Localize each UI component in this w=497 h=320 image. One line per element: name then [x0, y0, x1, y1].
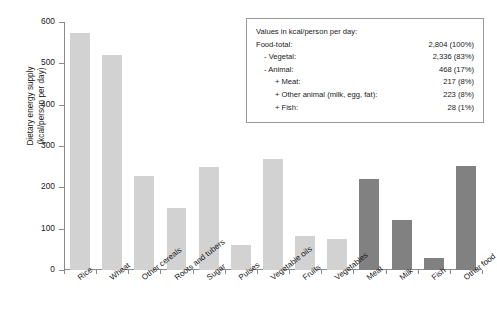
- info-row-label: - Vegetal:: [256, 51, 296, 64]
- x-tick: [321, 270, 322, 274]
- y-tick-label: 200: [25, 181, 55, 191]
- bar: [263, 159, 283, 270]
- info-row: Food-total:2,804 (100%): [256, 39, 474, 52]
- info-row-label: + Other animal (milk, egg, fat):: [256, 89, 377, 102]
- info-row-label: + Fish:: [256, 102, 298, 115]
- x-tick: [386, 270, 387, 274]
- info-row-value: 2,804 (100%): [428, 39, 474, 52]
- y-tick-label: 0: [25, 264, 55, 274]
- y-tick-label: 300: [25, 140, 55, 150]
- x-tick: [160, 270, 161, 274]
- bar: [70, 33, 90, 270]
- info-box: Values in kcal/person per day: Food-tota…: [246, 18, 484, 123]
- info-row-value: 223 (8%): [412, 89, 474, 102]
- x-tick: [418, 270, 419, 274]
- info-row-value: 28 (1%): [412, 102, 474, 115]
- info-row-label: Food-total:: [256, 39, 292, 52]
- bar: [456, 166, 476, 270]
- bar: [102, 55, 122, 270]
- info-row-value: 217 (8%): [412, 76, 474, 89]
- x-tick: [353, 270, 354, 274]
- info-row-value: 2,336 (83%): [433, 51, 474, 64]
- info-row: + Other animal (milk, egg, fat):223 (8%): [256, 89, 474, 102]
- y-tick-label: 600: [25, 16, 55, 26]
- y-axis-line: [64, 22, 65, 270]
- info-box-rows: Food-total:2,804 (100%)- Vegetal:2,336 (…: [256, 39, 474, 115]
- x-tick: [128, 270, 129, 274]
- info-row: - Animal:468 (17%): [256, 64, 474, 77]
- x-tick: [64, 270, 65, 274]
- x-tick: [96, 270, 97, 274]
- y-tick: 400: [59, 105, 64, 106]
- info-box-heading: Values in kcal/person per day:: [256, 26, 474, 39]
- info-row-label: + Meat:: [256, 76, 301, 89]
- info-row-value: 468 (17%): [439, 64, 474, 77]
- info-row: + Fish:28 (1%): [256, 102, 474, 115]
- x-tick: [450, 270, 451, 274]
- y-tick-label: 100: [25, 223, 55, 233]
- info-row: - Vegetal:2,336 (83%): [256, 51, 474, 64]
- y-tick: 600: [59, 22, 64, 23]
- bar: [392, 220, 412, 270]
- y-tick: 100: [59, 229, 64, 230]
- bar: [134, 176, 154, 270]
- info-row-label: - Animal:: [256, 64, 294, 77]
- y-tick-label: 400: [25, 99, 55, 109]
- y-tick: 300: [59, 146, 64, 147]
- y-tick-label: 500: [25, 57, 55, 67]
- y-tick: 500: [59, 63, 64, 64]
- y-tick: 200: [59, 187, 64, 188]
- info-row: + Meat:217 (8%): [256, 76, 474, 89]
